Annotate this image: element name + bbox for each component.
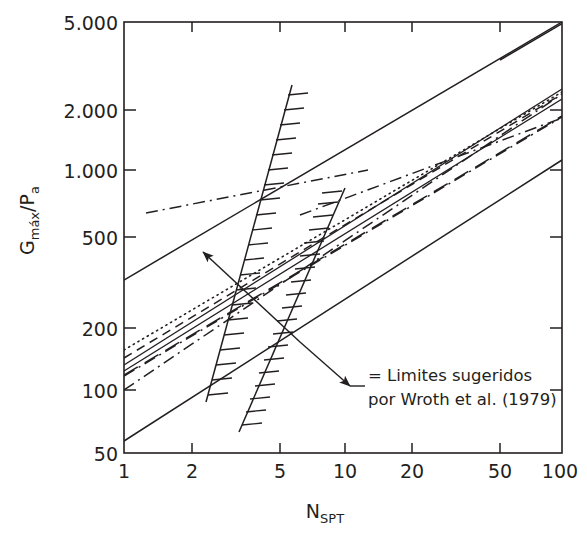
y-axis-title-g: G — [16, 240, 38, 255]
x-axis-title-n: N — [306, 500, 320, 522]
x-tick-label-20: 20 — [400, 460, 424, 482]
y-tick-label-100: 100 — [82, 380, 118, 402]
svg-text:Gmáx/Pa: Gmáx/Pa — [16, 186, 42, 255]
x-axis-title-sub: SPT — [320, 511, 344, 526]
series-corr-dashed — [124, 94, 562, 358]
x-axis-title: NSPT — [306, 500, 344, 526]
y-axis-ticks — [124, 110, 136, 390]
y-tick-label-500: 500 — [82, 227, 118, 249]
y-axis-title: Gmáx/Pa — [16, 186, 42, 255]
hatch-ticks-upper — [208, 93, 308, 395]
x-axis-ticks-top — [192, 22, 500, 32]
x-tick-label-5: 5 — [274, 460, 286, 482]
x-axis-ticks — [192, 443, 500, 453]
x-tick-label-10: 10 — [333, 460, 357, 482]
y-axis-title-p-sub: a — [27, 186, 42, 194]
y-axis-title-slash-p: /P — [16, 194, 38, 212]
series-corr-solid-b — [124, 99, 562, 371]
y-axis-title-g-sub: máx — [27, 212, 42, 241]
series-corr-dotted — [124, 92, 562, 350]
annotation-line-2: por Wroth et al. (1979) — [368, 390, 557, 409]
chart-svg: 5.000 2.000 1.000 500 200 100 50 1 2 5 1… — [0, 0, 587, 545]
y-tick-label-5000: 5.000 — [64, 12, 118, 34]
svg-text:NSPT: NSPT — [306, 500, 344, 526]
x-tick-label-100: 100 — [542, 460, 578, 482]
series-corr-dashdot-b — [124, 117, 562, 376]
x-tick-label-1: 1 — [118, 460, 130, 482]
y-tick-label-2000: 2.000 — [64, 100, 118, 122]
y-tick-label-50: 50 — [94, 443, 118, 465]
y-tick-label-1000: 1.000 — [64, 160, 118, 182]
y-tick-label-200: 200 — [82, 318, 118, 340]
annotation-line-1: = Limites sugeridos — [368, 366, 532, 385]
wroth-upper-limit-line — [206, 85, 308, 402]
plot-frame — [124, 22, 562, 453]
x-tick-label-50: 50 — [488, 460, 512, 482]
series-corr-dash-long — [124, 116, 562, 375]
y-axis-ticks-right — [550, 110, 562, 390]
chart-figure: 5.000 2.000 1.000 500 200 100 50 1 2 5 1… — [0, 0, 587, 545]
x-tick-label-2: 2 — [186, 460, 198, 482]
